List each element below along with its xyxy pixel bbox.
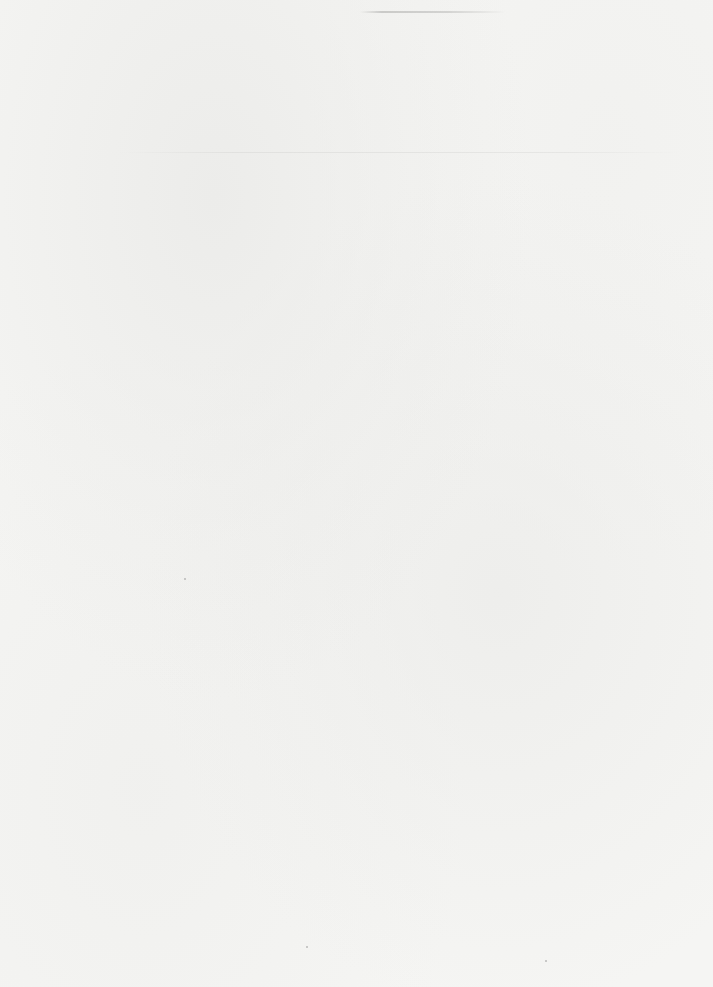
paper-speck xyxy=(184,578,186,580)
scanned-blank-page xyxy=(0,0,713,987)
paper-speck xyxy=(306,946,308,948)
show-through-text-line-1 xyxy=(360,11,505,13)
show-through-text-line-2 xyxy=(300,22,562,32)
show-through-rule xyxy=(120,152,680,153)
paper-speck xyxy=(545,960,547,962)
